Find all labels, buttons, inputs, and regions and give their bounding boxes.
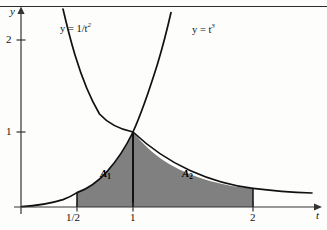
curve-label-reciprocal-square: y = 1/t2 bbox=[60, 22, 91, 34]
curve-label-cubic: y = t3 bbox=[192, 23, 215, 35]
region-label-a1: A1 bbox=[100, 168, 111, 181]
y-axis-arrowhead bbox=[17, 7, 24, 15]
x-axis-label: t bbox=[316, 210, 319, 221]
region-label-a2: A2 bbox=[182, 168, 193, 181]
x-tick-label-half: 1/2 bbox=[66, 212, 80, 223]
y-tick-label-2: 2 bbox=[6, 34, 12, 45]
x-tick-label-two: 2 bbox=[250, 212, 256, 223]
shaded-region-a2 bbox=[133, 132, 253, 207]
figure-canvas: y t 1 2 1/2 1 2 y = 1/t2 y = t3 A1 A2 bbox=[0, 0, 327, 230]
curve-reciprocal-square bbox=[63, 9, 312, 193]
x-tick-label-one: 1 bbox=[130, 212, 136, 223]
plot-svg bbox=[0, 0, 327, 230]
y-axis-label: y bbox=[10, 6, 15, 17]
y-tick-label-1: 1 bbox=[6, 126, 12, 137]
